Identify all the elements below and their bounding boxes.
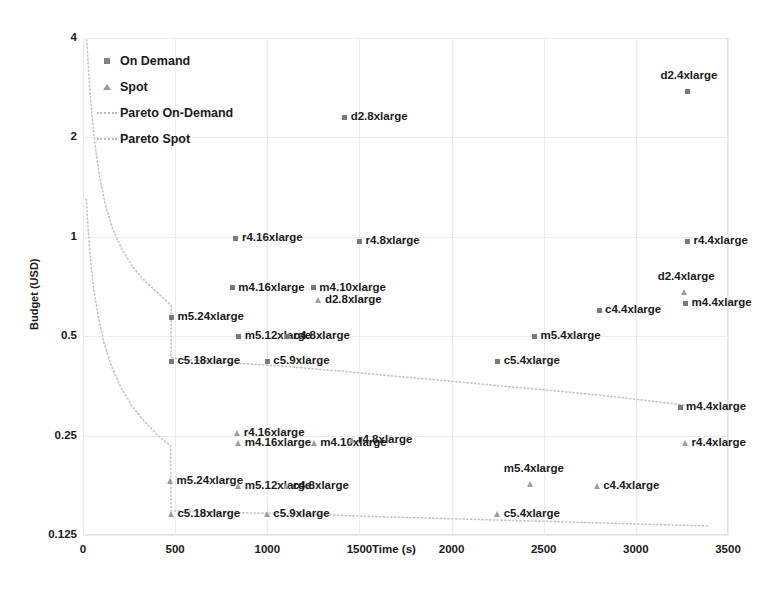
gridline-vertical — [83, 38, 84, 535]
x-tick-label: 3000 — [606, 543, 666, 555]
triangle-marker-icon — [235, 483, 241, 489]
square-marker-icon — [169, 359, 174, 364]
data-point-label: c5.9xlarge — [273, 354, 329, 366]
data-point-label: m5.24xlarge — [177, 310, 244, 322]
legend-item-pareto-on-demand: Pareto On-Demand — [96, 100, 233, 126]
y-tick-label: 2 — [71, 130, 77, 142]
triangle-marker-icon — [167, 478, 173, 484]
gridline-vertical — [544, 38, 545, 535]
y-tick-label: 1 — [71, 230, 77, 242]
data-point-label: m5.24xlarge — [177, 474, 244, 486]
x-tick-label: 500 — [145, 543, 205, 555]
square-marker-icon — [311, 285, 316, 290]
data-point-label: c5.9xlarge — [273, 507, 329, 519]
square-marker-icon — [678, 405, 683, 410]
x-tick-label: 3500 — [698, 543, 758, 555]
x-tick-label: 1000 — [237, 543, 297, 555]
legend-item-pareto-spot: Pareto Spot — [96, 126, 233, 152]
square-marker-icon — [96, 58, 118, 64]
square-marker-icon — [495, 359, 500, 364]
triangle-marker-icon — [349, 437, 355, 443]
data-point-label: m4.16xlarge — [245, 436, 312, 448]
data-point-label: m4.4xlarge — [692, 296, 752, 308]
triangle-marker-icon — [264, 511, 270, 517]
data-point-label: c4.4xlarge — [603, 479, 659, 491]
triangle-marker-icon — [527, 481, 533, 487]
square-marker-icon — [532, 334, 537, 339]
data-point-label: c5.18xlarge — [177, 507, 240, 519]
square-marker-icon — [342, 115, 347, 120]
legend-item-spot: Spot — [96, 74, 233, 100]
legend-label: Pareto On-Demand — [120, 106, 233, 120]
legend-label: Pareto Spot — [120, 132, 190, 146]
data-point-label: r4.4xlarge — [692, 436, 746, 448]
data-point-label: r4.4xlarge — [693, 234, 747, 246]
square-marker-icon — [236, 334, 241, 339]
legend-symbol — [104, 58, 110, 64]
data-point-label: m5.4xlarge — [541, 329, 601, 341]
triangle-marker-icon — [681, 289, 687, 295]
legend-symbol — [97, 112, 117, 114]
square-marker-icon — [230, 285, 235, 290]
y-tick-label: 4 — [71, 31, 77, 43]
y-tick-label: 0.25 — [55, 429, 77, 441]
data-point-label: c5.18xlarge — [177, 354, 240, 366]
data-point-label: c4.8xlarge — [294, 329, 350, 341]
data-point-label: d2.4xlarge — [658, 270, 715, 282]
data-point-label: c5.4xlarge — [504, 354, 560, 366]
data-point-label: m4.4xlarge — [686, 400, 746, 412]
data-point-label: m5.4xlarge — [504, 462, 564, 474]
gridline-horizontal — [83, 336, 728, 337]
triangle-marker-icon — [682, 440, 688, 446]
data-point-label: m4.16xlarge — [238, 281, 305, 293]
legend-label: On Demand — [120, 54, 190, 68]
data-point-label: r4.8xlarge — [358, 433, 412, 445]
dotted-line-icon — [96, 112, 118, 114]
data-point-label: c4.8xlarge — [293, 479, 349, 491]
data-point-label: r4.16xlarge — [242, 231, 303, 243]
x-axis-title: Time (s) — [372, 543, 416, 555]
x-tick-label: 2500 — [514, 543, 574, 555]
triangle-marker-icon — [168, 511, 174, 517]
square-marker-icon — [265, 359, 270, 364]
data-point-label: d2.4xlarge — [660, 69, 717, 81]
data-point-label: m4.10xlarge — [319, 281, 386, 293]
gridline-horizontal — [83, 38, 728, 39]
square-marker-icon — [233, 236, 238, 241]
triangle-marker-icon — [96, 84, 118, 90]
square-marker-icon — [685, 239, 690, 244]
square-marker-icon — [169, 315, 174, 320]
gridline-vertical — [452, 38, 453, 535]
triangle-marker-icon — [494, 511, 500, 517]
x-tick-label: 0 — [53, 543, 113, 555]
dotted-line-icon — [96, 138, 118, 140]
gridline-vertical — [728, 38, 729, 535]
data-point-label: c5.4xlarge — [504, 507, 560, 519]
y-axis-title: Budget (USD) — [28, 259, 40, 331]
square-marker-icon — [285, 334, 290, 339]
gridline-horizontal — [83, 535, 728, 536]
y-tick-label: 0.125 — [48, 528, 77, 540]
chart-legend: On DemandSpotPareto On-DemandPareto Spot — [96, 48, 233, 152]
x-tick-label: 2000 — [422, 543, 482, 555]
square-marker-icon — [357, 239, 362, 244]
triangle-marker-icon — [283, 483, 289, 489]
data-point-label: c4.4xlarge — [605, 303, 661, 315]
legend-item-on-demand: On Demand — [96, 48, 233, 74]
triangle-marker-icon — [234, 430, 240, 436]
triangle-marker-icon — [594, 483, 600, 489]
square-marker-icon — [597, 308, 602, 313]
triangle-marker-icon — [315, 297, 321, 303]
data-point-label: r4.8xlarge — [365, 234, 419, 246]
gridline-vertical — [636, 38, 637, 535]
y-tick-label: 0.5 — [61, 329, 77, 341]
legend-label: Spot — [120, 80, 148, 94]
triangle-marker-icon — [311, 440, 317, 446]
square-marker-icon — [685, 89, 690, 94]
legend-symbol — [103, 84, 111, 90]
triangle-marker-icon — [235, 440, 241, 446]
square-marker-icon — [683, 301, 688, 306]
data-point-label: d2.8xlarge — [325, 293, 382, 305]
data-point-label: d2.8xlarge — [351, 110, 408, 122]
legend-symbol — [97, 138, 117, 140]
